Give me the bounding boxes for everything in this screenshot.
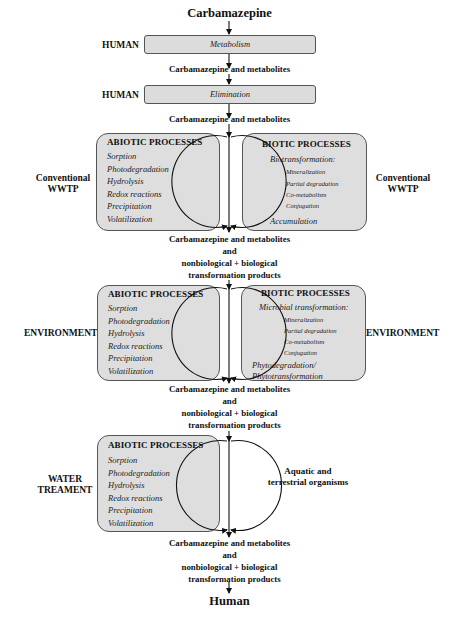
transformation-output-3: Carbamazepine and metabolites and nonbio… bbox=[0, 537, 459, 585]
biotic-subitem: Conjugation bbox=[284, 349, 317, 356]
abiotic-item: Photodegradation bbox=[107, 164, 169, 174]
biotic-footer: Phytotransformation bbox=[252, 371, 323, 381]
abiotic-item: Redox reactions bbox=[108, 493, 163, 503]
abiotic-item: Precipitation bbox=[107, 201, 152, 211]
section-label-environment-right: ENVIRONMENT bbox=[366, 328, 439, 339]
biotic-subitem: Mineralization bbox=[286, 168, 325, 175]
process-label-metabolism: Metabolism bbox=[210, 39, 250, 49]
label-line: TREAMENT bbox=[30, 485, 100, 496]
abiotic-item: Photodegradation bbox=[108, 468, 170, 478]
output-line: and bbox=[0, 245, 459, 257]
label-line: WWTP bbox=[28, 184, 98, 195]
output-line: Carbamazepine and metabolites bbox=[0, 537, 459, 549]
label-line: WWTP bbox=[368, 184, 438, 195]
intermediate-label-2: Carbamazepine and metabolites bbox=[0, 113, 459, 125]
biotic-subitem: Co-metabolism bbox=[286, 191, 326, 198]
biotic-subitem: Mineralization bbox=[284, 316, 323, 323]
source-node-carbamazepine: Carbamazepine bbox=[0, 6, 459, 21]
biotic-heading: Biotransformation: bbox=[270, 154, 336, 164]
side-label-human-2: HUMAN bbox=[102, 90, 139, 101]
label-line: terrestrial organisms bbox=[258, 477, 358, 488]
label-line: Conventional bbox=[368, 173, 438, 184]
process-label-elimination: Elimination bbox=[210, 89, 250, 99]
abiotic-item: Sorption bbox=[108, 303, 137, 313]
section-label-wwtp-left: Conventional WWTP bbox=[28, 173, 98, 195]
abiotic-item: Volatilization bbox=[108, 518, 153, 528]
biotic-title: BIOTIC PROCESSES bbox=[261, 288, 350, 298]
output-line: transformation products bbox=[0, 573, 459, 585]
abiotic-item: Hydrolysis bbox=[108, 328, 145, 338]
output-line: nonbiological + biological bbox=[0, 407, 459, 419]
section-label-water-treatment: WATER TREAMENT bbox=[30, 474, 100, 496]
abiotic-item: Precipitation bbox=[108, 505, 153, 515]
label-line: Aquatic and bbox=[258, 466, 358, 477]
abiotic-item: Redox reactions bbox=[108, 341, 163, 351]
label-line: WATER bbox=[30, 474, 100, 485]
abiotic-item: Hydrolysis bbox=[107, 176, 144, 186]
biotic-subitem: Partial degradation bbox=[284, 327, 337, 334]
label-line: Conventional bbox=[28, 173, 98, 184]
output-line: nonbiological + biological bbox=[0, 257, 459, 269]
side-label-human-1: HUMAN bbox=[102, 40, 139, 51]
biotic-title: BIOTIC PROCESSES bbox=[262, 139, 351, 149]
abiotic-item: Volatilization bbox=[107, 214, 152, 224]
abiotic-item: Sorption bbox=[107, 151, 136, 161]
abiotic-item: Hydrolysis bbox=[108, 480, 145, 490]
sink-node-human: Human bbox=[0, 594, 459, 609]
abiotic-item: Volatilization bbox=[108, 366, 153, 376]
output-line: transformation products bbox=[0, 419, 459, 431]
section-label-environment-left: ENVIRONMENT bbox=[24, 328, 97, 339]
transformation-output-2: Carbamazepine and metabolites and nonbio… bbox=[0, 383, 459, 431]
abiotic-title: ABIOTIC PROCESSES bbox=[108, 289, 203, 299]
output-line: and bbox=[0, 549, 459, 561]
biotic-footer: Accumulation bbox=[270, 216, 317, 226]
biotic-subitem: Co-metabolism bbox=[284, 338, 324, 345]
biotic-subitem: Conjugation bbox=[286, 202, 319, 209]
output-line: Carbamazepine and metabolites bbox=[0, 233, 459, 245]
aquatic-terrestrial-organisms-label: Aquatic and terrestrial organisms bbox=[258, 466, 358, 488]
intermediate-label-1: Carbamazepine and metabolites bbox=[0, 63, 459, 75]
transformation-output-1: Carbamazepine and metabolites and nonbio… bbox=[0, 233, 459, 281]
output-line: and bbox=[0, 395, 459, 407]
biotic-heading: Microbial transformation: bbox=[259, 302, 349, 312]
abiotic-item: Redox reactions bbox=[107, 189, 162, 199]
biotic-footer: Phytodegradation/ bbox=[252, 360, 316, 370]
process-box-elimination: Elimination bbox=[144, 85, 316, 104]
abiotic-item: Precipitation bbox=[108, 353, 153, 363]
output-line: Carbamazepine and metabolites bbox=[0, 383, 459, 395]
biotic-subitem: Partial degradation bbox=[286, 180, 339, 187]
process-box-metabolism: Metabolism bbox=[144, 35, 316, 54]
output-line: transformation products bbox=[0, 269, 459, 281]
output-line: nonbiological + biological bbox=[0, 561, 459, 573]
section-label-wwtp-right: Conventional WWTP bbox=[368, 173, 438, 195]
abiotic-item: Sorption bbox=[108, 455, 137, 465]
abiotic-title: ABIOTIC PROCESSES bbox=[108, 440, 203, 450]
abiotic-item: Photodegradation bbox=[108, 316, 170, 326]
abiotic-title: ABIOTIC PROCESSES bbox=[107, 137, 202, 147]
